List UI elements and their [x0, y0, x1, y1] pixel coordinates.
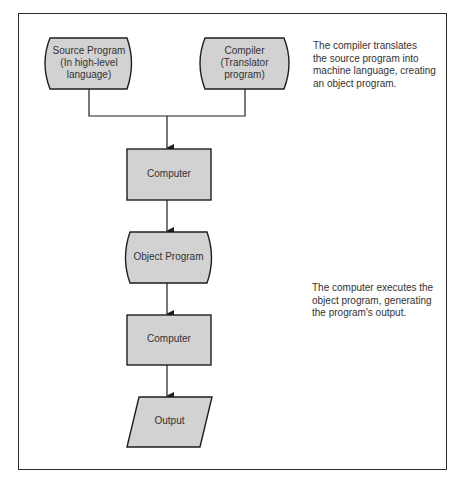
- object-program-text: Object Program: [124, 251, 213, 263]
- source-line-1: Source Program: [45, 45, 133, 57]
- note1-line-2: the source program into: [313, 53, 443, 66]
- computer2-label: Computer: [127, 333, 211, 345]
- computer1-text: Computer: [127, 168, 211, 180]
- computer1-label: Computer: [127, 168, 211, 180]
- source-line-2: (In high-level: [45, 57, 133, 69]
- compiler-note: The compiler translates the source progr…: [313, 40, 443, 90]
- connector-source-to-merge: [89, 89, 245, 116]
- computer-note: The computer executes the object program…: [312, 282, 442, 320]
- note2-line-2: object program, generating: [312, 295, 442, 308]
- source-program-label: Source Program (In high-level language): [45, 45, 133, 81]
- source-line-3: language): [45, 69, 133, 81]
- compiler-label: Compiler (Translator program): [200, 45, 289, 81]
- note1-line-4: an object program.: [313, 78, 443, 91]
- note2-line-3: the program's output.: [312, 307, 442, 320]
- compiler-line-3: program): [200, 69, 289, 81]
- note2-line-1: The computer executes the: [312, 282, 442, 295]
- note1-line-1: The compiler translates: [313, 40, 443, 53]
- note1-line-3: machine language, creating: [313, 65, 443, 78]
- compiler-line-2: (Translator: [200, 57, 289, 69]
- compiler-line-1: Compiler: [200, 45, 289, 57]
- object-program-label: Object Program: [124, 251, 213, 263]
- output-text: Output: [127, 415, 212, 427]
- output-label: Output: [127, 415, 212, 427]
- computer2-text: Computer: [127, 333, 211, 345]
